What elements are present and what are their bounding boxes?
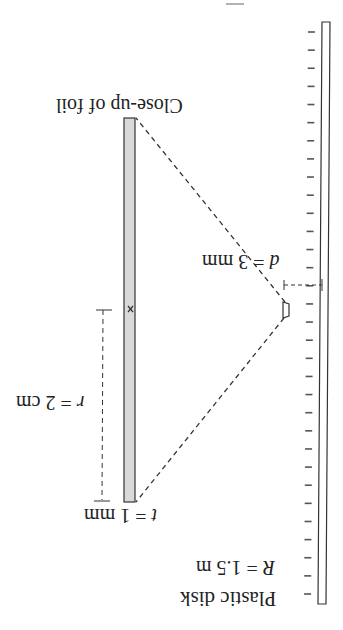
- R-variable: R: [263, 557, 275, 579]
- R-value: = 1.5 m: [196, 557, 263, 579]
- d-value: = 3 mm: [202, 251, 269, 273]
- d-variable: d: [269, 251, 279, 273]
- d-dimension-marker: [284, 279, 322, 291]
- label-t-thickness: t = 1 mm: [84, 506, 157, 526]
- label-plastic-disk: Plastic disk: [180, 588, 276, 609]
- r-value: = 2 cm: [16, 392, 77, 414]
- t-value: = 1 mm: [84, 505, 151, 527]
- projection-line-top: [136, 118, 285, 302]
- disk-ticks: [304, 32, 315, 594]
- r-dimension-line: [94, 310, 112, 501]
- plastic-disk: [318, 22, 330, 604]
- t-variable: t: [151, 505, 157, 527]
- small-foil: [283, 302, 289, 318]
- projection-line-bottom: [136, 318, 284, 502]
- label-text: Close-up of foil: [56, 95, 183, 117]
- r-variable: r: [77, 392, 85, 414]
- label-d-distance: d = 3 mm: [202, 252, 279, 272]
- label-close-up-of-foil: Close-up of foil: [56, 96, 183, 116]
- label-disk-radius: R = 1.5 m: [196, 558, 275, 578]
- disk-name: Plastic disk: [180, 587, 276, 611]
- label-r-radius: r = 2 cm: [16, 393, 85, 413]
